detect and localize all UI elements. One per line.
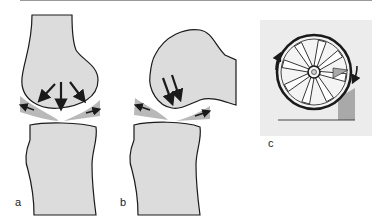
- panel-label-c: c: [268, 137, 274, 149]
- panel-b: [130, 30, 236, 215]
- knee-diagram: [0, 0, 387, 217]
- femur-b: [150, 30, 236, 109]
- tibia-a: [26, 123, 97, 215]
- panel-label-b: b: [120, 196, 126, 208]
- meniscus-b-right: [176, 106, 210, 121]
- panel-a: [20, 15, 100, 215]
- panel-c: [260, 20, 372, 136]
- panel-label-a: a: [15, 196, 21, 208]
- tibia-b: [130, 122, 201, 215]
